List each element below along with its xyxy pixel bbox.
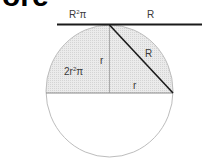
label-r-squared-pi: R2π <box>69 9 87 20</box>
title-fragment: ore <box>2 0 49 12</box>
circle-area-diagram: ore R2π R 2r2π r r R <box>0 0 204 167</box>
label-top-r: R <box>147 9 154 20</box>
label-diagonal-r: R <box>145 48 152 59</box>
